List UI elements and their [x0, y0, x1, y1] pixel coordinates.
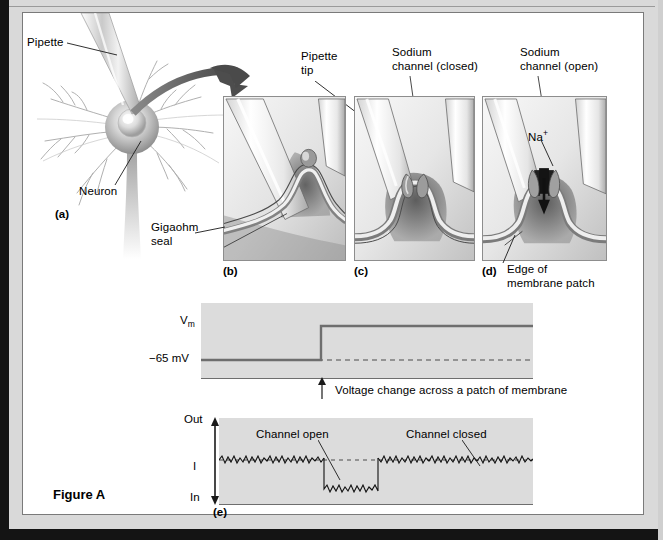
scan-edge-right — [658, 0, 663, 540]
figure-caption-label: Figure A — [53, 487, 105, 502]
axis-label-vm: Vm — [180, 314, 195, 329]
label-sodium-ion-charge: + — [543, 128, 548, 138]
figure-container: Pipette Neuron (a) Pipette tip Sodium ch… — [22, 12, 644, 515]
label-sodium-channel-open: Sodium channel (open) — [520, 46, 598, 73]
voltage-panel-baseline — [201, 378, 533, 379]
panel-c-sodium-channel-closed — [354, 96, 475, 261]
label-pipette-tip: Pipette tip — [301, 50, 338, 77]
leader-pipette — [67, 39, 119, 61]
leader-channel-closed — [462, 440, 484, 468]
scan-edge-bottom — [0, 529, 663, 540]
axis-label-current: I — [193, 460, 196, 472]
voltage-trace-panel — [201, 303, 533, 378]
axis-label-vm-subscript: m — [188, 319, 195, 329]
axis-label-out: Out — [184, 413, 203, 425]
scan-top-rule — [9, 6, 655, 7]
scan-edge-left — [0, 0, 9, 540]
label-sodium-channel-closed: Sodium channel (closed) — [392, 46, 478, 73]
leader-sodium-ion — [537, 140, 557, 168]
leader-channel-open — [318, 440, 344, 482]
leader-edge-of-membrane-patch — [501, 235, 519, 265]
voltage-trace-plot — [201, 303, 533, 378]
label-neuron: Neuron — [79, 185, 117, 199]
axis-label-vm-text: V — [180, 314, 188, 326]
leader-gigaohm-seal — [195, 225, 227, 237]
page-scan-background: Pipette Neuron (a) Pipette tip Sodium ch… — [0, 0, 663, 540]
panel-letter-a: (a) — [55, 208, 69, 220]
axis-label-resting-potential: −65 mV — [149, 352, 189, 364]
panel-letter-d: (d) — [482, 265, 497, 277]
current-panel-baseline — [219, 504, 533, 505]
leader-neuron — [109, 141, 145, 187]
label-pipette: Pipette — [27, 36, 64, 50]
label-voltage-change-caption: Voltage change across a patch of membran… — [335, 384, 567, 398]
panel-letter-b: (b) — [223, 265, 238, 277]
axis-label-in: In — [190, 491, 200, 503]
label-edge-of-membrane-patch: Edge of membrane patch — [507, 263, 595, 290]
panel-letter-c: (c) — [354, 265, 368, 277]
panel-letter-e: (e) — [213, 506, 227, 518]
panel-b-gigaohm-seal — [223, 96, 346, 261]
label-gigaohm-seal: Gigaohm seal — [151, 221, 198, 248]
voltage-event-arrow — [315, 377, 329, 401]
